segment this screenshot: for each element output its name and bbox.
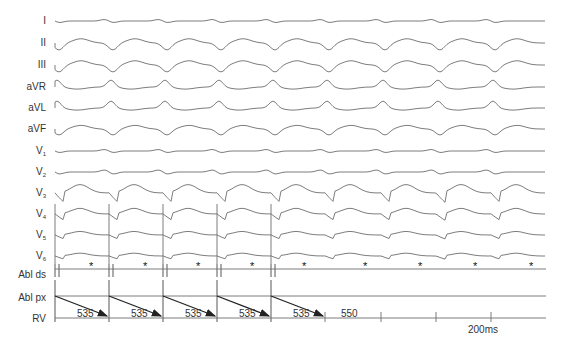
star-marker: * xyxy=(473,260,478,272)
interval-label: 535 xyxy=(77,308,94,319)
ecg-figure: I II III aVR aVL aVF V1 V2 V3 V4 V5 V6 A… xyxy=(0,0,564,348)
interval-label: 535 xyxy=(293,308,310,319)
star-marker: * xyxy=(196,260,201,272)
star-marker: * xyxy=(363,260,368,272)
star-marker: * xyxy=(529,260,534,272)
return-interval-label: 550 xyxy=(341,308,358,319)
star-marker: * xyxy=(302,260,307,272)
interval-label: 535 xyxy=(185,308,202,319)
star-marker: * xyxy=(89,260,94,272)
star-marker: * xyxy=(418,260,423,272)
star-marker: * xyxy=(143,260,148,272)
tracings: *********535535535535535550200ms xyxy=(0,0,564,348)
interval-label: 535 xyxy=(239,308,256,319)
interval-label: 535 xyxy=(131,308,148,319)
star-marker: * xyxy=(250,260,255,272)
scale-bar-label: 200ms xyxy=(468,324,498,335)
